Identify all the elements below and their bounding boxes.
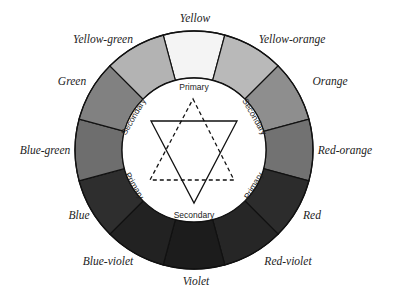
inner-label-primary: Primary bbox=[179, 82, 209, 92]
segment-label-blue-violet: Blue-violet bbox=[83, 255, 134, 267]
segment-label-yellow-orange: Yellow-orange bbox=[259, 33, 326, 46]
inner-label-secondary: Secondary bbox=[174, 210, 215, 220]
segment-label-red: Red bbox=[302, 209, 321, 221]
segment-label-blue: Blue bbox=[68, 209, 89, 221]
segment-label-yellow-green: Yellow-green bbox=[73, 33, 133, 46]
segment-label-green: Green bbox=[58, 75, 87, 87]
segment-label-orange: Orange bbox=[312, 75, 347, 88]
segment-label-red-orange: Red-orange bbox=[317, 144, 372, 157]
segment-label-blue-green: Blue-green bbox=[20, 144, 71, 157]
segment-label-violet: Violet bbox=[183, 275, 210, 287]
color-wheel-diagram: PrimarySecondarySecondaryPrimaryPrimaryS… bbox=[0, 0, 393, 297]
segment-label-yellow: Yellow bbox=[180, 12, 211, 24]
segment-label-red-violet: Red-violet bbox=[263, 255, 312, 267]
